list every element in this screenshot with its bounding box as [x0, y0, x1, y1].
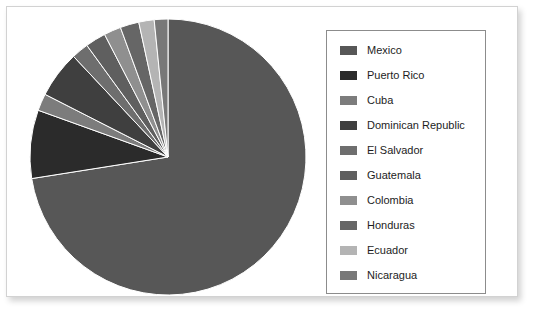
- legend-item-label: Nicaragua: [367, 270, 417, 281]
- legend-swatch-icon: [340, 271, 357, 280]
- legend-item-label: Honduras: [367, 220, 415, 231]
- pie-chart: [29, 18, 307, 296]
- chart-legend: Mexico Puerto Rico Cuba Dominican Republ…: [326, 30, 486, 294]
- legend-item-guatemala[interactable]: Guatemala: [327, 163, 485, 188]
- legend-item-label: Colombia: [367, 195, 413, 206]
- legend-swatch-icon: [340, 221, 357, 230]
- legend-item-label: Puerto Rico: [367, 70, 424, 81]
- legend-item-puerto-rico[interactable]: Puerto Rico: [327, 63, 485, 88]
- legend-item-label: Mexico: [367, 45, 402, 56]
- legend-item-colombia[interactable]: Colombia: [327, 188, 485, 213]
- legend-swatch-icon: [340, 71, 357, 80]
- legend-item-label: Cuba: [367, 95, 393, 106]
- legend-item-label: Ecuador: [367, 245, 408, 256]
- pie-slice-group: [30, 19, 306, 295]
- legend-item-ecuador[interactable]: Ecuador: [327, 238, 485, 263]
- chart-panel: Mexico Puerto Rico Cuba Dominican Republ…: [6, 6, 518, 297]
- legend-item-el-salvador[interactable]: El Salvador: [327, 138, 485, 163]
- legend-swatch-icon: [340, 246, 357, 255]
- legend-item-honduras[interactable]: Honduras: [327, 213, 485, 238]
- legend-swatch-icon: [340, 196, 357, 205]
- legend-swatch-icon: [340, 121, 357, 130]
- legend-item-cuba[interactable]: Cuba: [327, 88, 485, 113]
- legend-item-nicaragua[interactable]: Nicaragua: [327, 263, 485, 288]
- legend-swatch-icon: [340, 146, 357, 155]
- legend-swatch-icon: [340, 46, 357, 55]
- legend-item-label: Guatemala: [367, 170, 421, 181]
- legend-item-mexico[interactable]: Mexico: [327, 38, 485, 63]
- legend-item-label: El Salvador: [367, 145, 423, 156]
- legend-item-label: Dominican Republic: [367, 120, 465, 131]
- legend-swatch-icon: [340, 171, 357, 180]
- pie-chart-area: [7, 7, 307, 296]
- legend-item-dominican-republic[interactable]: Dominican Republic: [327, 113, 485, 138]
- legend-swatch-icon: [340, 96, 357, 105]
